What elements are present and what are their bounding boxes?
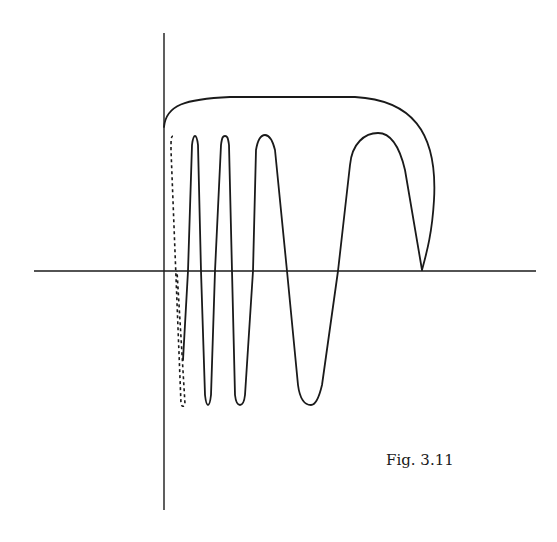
figure-3-11: [0, 0, 557, 542]
top-arc-curve: [164, 97, 434, 270]
oscillating-curve: [183, 133, 422, 405]
figure-caption: Fig. 3.11: [386, 451, 454, 469]
